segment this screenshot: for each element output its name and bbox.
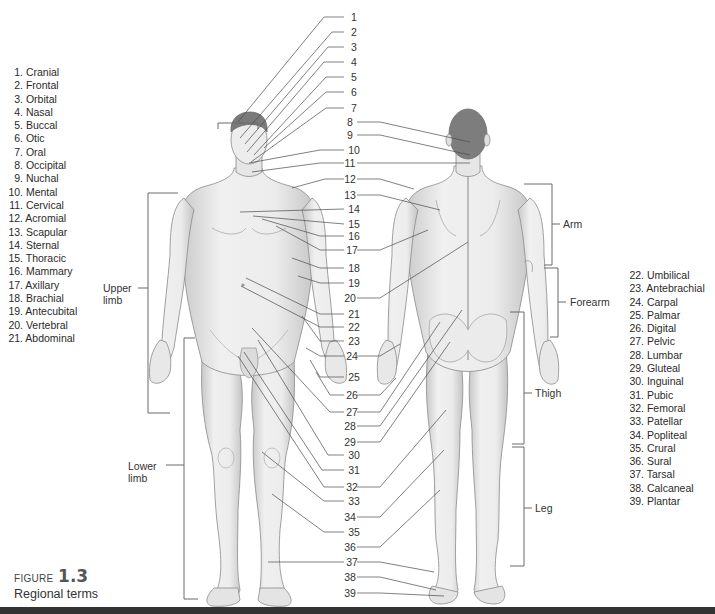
- forearm-label: Forearm: [570, 296, 610, 308]
- legend-item: 5. Buccal: [6, 119, 77, 132]
- label-number-26: 26: [342, 389, 362, 401]
- legend-item: 19. Antecubital: [6, 305, 77, 318]
- legend-item: 14. Sternal: [6, 239, 77, 252]
- label-number-24: 24: [342, 350, 362, 362]
- label-number-23: 23: [344, 335, 364, 347]
- label-number-28: 28: [340, 420, 360, 432]
- label-number-8: 8: [340, 116, 360, 128]
- legend-item: 11. Cervical: [6, 199, 77, 212]
- label-number-38: 38: [340, 571, 360, 583]
- label-number-34: 34: [340, 511, 360, 523]
- legend-item: 10. Mental: [6, 186, 77, 199]
- legend-item: 15. Thoracic: [6, 252, 77, 265]
- legend-item: 9. Nuchal: [6, 172, 77, 185]
- lower-limb-label: Lower limb: [128, 460, 157, 484]
- legend-item: 29. Gluteal: [628, 362, 705, 375]
- anterior-body: [149, 112, 346, 606]
- legend-item: 32. Femoral: [628, 402, 705, 415]
- figure-title: Regional terms: [14, 587, 98, 601]
- legend-item: 3. Orbital: [6, 93, 77, 106]
- arm-label: Arm: [563, 218, 582, 230]
- legend-item: 4. Nasal: [6, 106, 77, 119]
- legend-item: 1. Cranial: [6, 66, 77, 79]
- label-number-19: 19: [344, 277, 364, 289]
- legend-item: 30. Inguinal: [628, 375, 705, 388]
- legend-item: 25. Palmar: [628, 309, 705, 322]
- legend-item: 6. Otic: [6, 132, 77, 145]
- label-number-21: 21: [344, 308, 364, 320]
- label-number-17: 17: [342, 244, 362, 256]
- label-number-27: 27: [342, 406, 362, 418]
- label-number-6: 6: [344, 86, 364, 98]
- legend-item: 28. Lumbar: [628, 349, 705, 362]
- label-number-18: 18: [344, 262, 364, 274]
- bottom-border-bar: [0, 607, 715, 614]
- label-number-7: 7: [344, 102, 364, 114]
- label-number-37: 37: [342, 556, 362, 568]
- thigh-label: Thigh: [535, 387, 561, 399]
- figure-caption: FIGURE 1.3 Regional terms: [14, 566, 98, 601]
- label-number-33: 33: [344, 495, 364, 507]
- label-number-30: 30: [344, 449, 364, 461]
- upper-limb-label: Upper limb: [103, 282, 132, 306]
- label-number-20: 20: [340, 292, 360, 304]
- label-number-35: 35: [344, 526, 364, 538]
- label-number-32: 32: [342, 481, 362, 493]
- label-number-15: 15: [344, 218, 364, 230]
- legend-item: 17. Axillary: [6, 279, 77, 292]
- label-number-9: 9: [340, 129, 360, 141]
- leg-label: Leg: [535, 502, 553, 514]
- label-number-31: 31: [344, 464, 364, 476]
- legend-right: 22. Umbilical 23. Antebrachial 24. Carpa…: [628, 269, 705, 508]
- label-number-4: 4: [344, 56, 364, 68]
- legend-item: 18. Brachial: [6, 292, 77, 305]
- label-number-5: 5: [344, 71, 364, 83]
- label-number-2: 2: [344, 26, 364, 38]
- figure-label: FIGURE 1.3: [14, 566, 98, 586]
- label-number-39: 39: [340, 587, 360, 599]
- label-number-29: 29: [340, 436, 360, 448]
- legend-item: 35. Crural: [628, 442, 705, 455]
- legend-item: 2. Frontal: [6, 79, 77, 92]
- lower-limb-bracket: [184, 338, 198, 599]
- legend-item: 38. Calcaneal: [628, 482, 705, 495]
- label-number-3: 3: [344, 41, 364, 53]
- legend-item: 37. Tarsal: [628, 468, 705, 481]
- legend-item: 22. Umbilical: [628, 269, 705, 282]
- legend-item: 8. Occipital: [6, 159, 77, 172]
- legend-item: 13. Scapular: [6, 226, 77, 239]
- legend-item: 39. Plantar: [628, 495, 705, 508]
- posterior-body: [377, 109, 558, 604]
- legend-item: 26. Digital: [628, 322, 705, 335]
- label-number-1: 1: [344, 11, 364, 23]
- label-number-13: 13: [340, 189, 360, 201]
- legend-item: 21. Abdominal: [6, 332, 77, 345]
- label-number-16: 16: [344, 230, 364, 242]
- label-number-12: 12: [340, 173, 360, 185]
- label-number-10: 10: [344, 144, 364, 156]
- legend-item: 24. Carpal: [628, 296, 705, 309]
- legend-item: 12. Acromial: [6, 212, 77, 225]
- legend-left: 1. Cranial 2. Frontal 3. Orbital 4. Nasa…: [6, 66, 77, 345]
- legend-item: 31. Pubic: [628, 389, 705, 402]
- legend-item: 27. Pelvic: [628, 335, 705, 348]
- leg-bracket: [510, 447, 524, 566]
- legend-item: 33. Patellar: [628, 415, 705, 428]
- legend-item: 20. Vertebral: [6, 319, 77, 332]
- label-number-11: 11: [340, 157, 360, 169]
- legend-item: 16. Mammary: [6, 265, 77, 278]
- legend-item: 36. Sural: [628, 455, 705, 468]
- legend-item: 23. Antebrachial: [628, 282, 705, 295]
- legend-item: 7. Oral: [6, 146, 77, 159]
- legend-item: 34. Popliteal: [628, 429, 705, 442]
- label-number-25: 25: [344, 371, 364, 383]
- label-number-22: 22: [344, 321, 364, 333]
- label-number-14: 14: [344, 203, 364, 215]
- label-number-36: 36: [340, 541, 360, 553]
